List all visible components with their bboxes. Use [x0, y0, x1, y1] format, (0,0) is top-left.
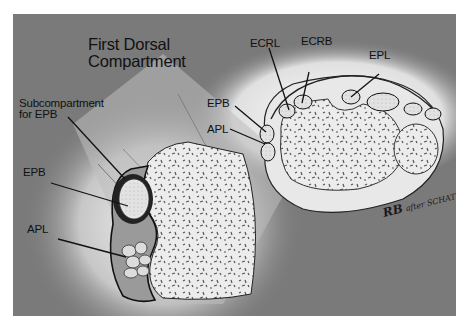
- label-epl: EPL: [369, 50, 390, 61]
- label-ecrb: ECRB: [301, 36, 332, 47]
- label-subcompartment: Subcompartment for EPB: [19, 98, 104, 120]
- label-ecrl: ECRL: [250, 38, 280, 49]
- label-left-apl: APL: [27, 224, 48, 235]
- illustration-panel: First Dorsal Compartment Subcompartment …: [13, 14, 456, 316]
- label-right-apl: APL: [207, 124, 228, 135]
- label-left-epb: EPB: [23, 167, 45, 178]
- figure-title: First Dorsal Compartment: [88, 36, 186, 70]
- title-line-2: Compartment: [88, 53, 186, 70]
- title-line-1: First Dorsal: [88, 36, 186, 53]
- label-right-epb: EPB: [207, 98, 229, 109]
- label-subcompartment-line2: for EPB: [19, 109, 104, 120]
